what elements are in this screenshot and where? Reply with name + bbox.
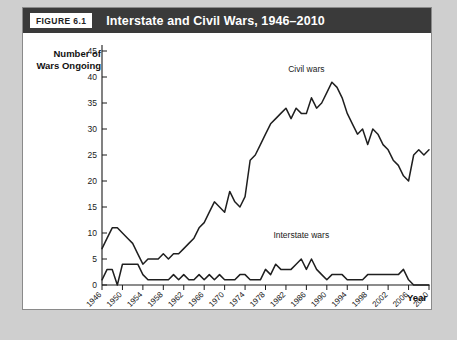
y-axis-tick-label: 20 bbox=[88, 176, 98, 186]
chart-plot-area: 051015202530354045 194619501954195819621… bbox=[23, 33, 431, 309]
figure-title: Interstate and Civil Wars, 1946–2010 bbox=[106, 14, 325, 28]
y-axis-tick-label: 10 bbox=[88, 228, 98, 238]
x-axis-title: Year bbox=[407, 292, 427, 303]
x-axis-tick-label: 1970 bbox=[207, 290, 226, 309]
y-axis-tick-label: 5 bbox=[92, 254, 97, 264]
x-axis-tick-label: 1986 bbox=[289, 290, 308, 309]
figure-container: FIGURE 6.1 Interstate and Civil Wars, 19… bbox=[22, 7, 432, 310]
annotation-civil-wars: Civil wars bbox=[288, 64, 324, 74]
y-axis-tick-label: 40 bbox=[88, 72, 98, 82]
x-axis-tick-label: 1946 bbox=[84, 290, 103, 309]
data-series-group bbox=[102, 82, 429, 285]
y-axis: 051015202530354045 bbox=[88, 45, 107, 290]
y-axis-tick-label: 25 bbox=[88, 150, 98, 160]
series-annotations: Civil warsInterstate wars bbox=[273, 64, 329, 240]
y-axis-tick-label: 15 bbox=[88, 202, 98, 212]
x-axis-tick-label: 1998 bbox=[350, 290, 369, 309]
x-axis-tick-label: 1978 bbox=[248, 290, 267, 309]
x-axis-tick-label: 1982 bbox=[268, 290, 287, 309]
x-axis-tick-label: 1954 bbox=[125, 290, 144, 309]
x-axis-tick-label: 1990 bbox=[309, 290, 328, 309]
x-axis-tick-label: 1974 bbox=[228, 290, 247, 309]
x-axis-tick-label: 1962 bbox=[166, 290, 185, 309]
figure-number-badge: FIGURE 6.1 bbox=[30, 13, 92, 28]
annotation-interstate-wars: Interstate wars bbox=[273, 230, 329, 240]
series-line-civil-wars bbox=[102, 82, 429, 264]
y-axis-tick-label: 35 bbox=[88, 98, 98, 108]
series-line-interstate-wars bbox=[102, 259, 429, 285]
x-axis-tick-label: 1966 bbox=[187, 290, 206, 309]
y-axis-tick-label: 0 bbox=[92, 280, 97, 290]
y-axis-tick-label: 30 bbox=[88, 124, 98, 134]
x-axis-tick-label: 1958 bbox=[146, 290, 165, 309]
x-axis-tick-label: 1994 bbox=[330, 290, 349, 309]
y-axis-title-line2: Wars Ongoing bbox=[36, 60, 101, 71]
x-axis-tick-label: 1950 bbox=[105, 290, 124, 309]
x-axis-tick-label: 2002 bbox=[371, 290, 390, 309]
figure-header: FIGURE 6.1 Interstate and Civil Wars, 19… bbox=[23, 8, 431, 33]
x-axis: 1946195019541958196219661970197419781982… bbox=[84, 285, 430, 309]
line-chart: 051015202530354045 194619501954195819621… bbox=[23, 33, 431, 309]
y-axis-title-line1: Number of bbox=[54, 48, 102, 59]
